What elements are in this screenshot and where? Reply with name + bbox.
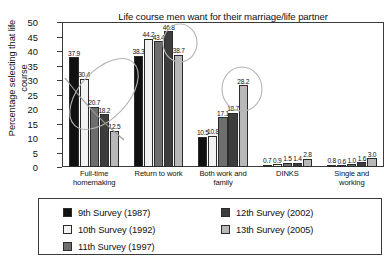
legend-item[interactable]: 9th Survey (1987) xyxy=(63,206,150,219)
bar[interactable] xyxy=(263,165,272,167)
x-axis-category-label: Single andworking xyxy=(316,169,388,188)
bar[interactable] xyxy=(347,164,356,167)
legend-color-swatch xyxy=(63,242,72,251)
x-label-line1: DINKS xyxy=(276,169,299,178)
bar-group: 0.70.91.51.42.8 xyxy=(255,22,319,167)
legend-item-label: 11th Survey (1997) xyxy=(78,242,155,252)
bar[interactable] xyxy=(357,162,366,167)
legend-color-swatch xyxy=(63,208,72,217)
x-label-line2: homemaking xyxy=(73,178,115,187)
bar[interactable] xyxy=(134,56,143,167)
bar-value-label: 0.7 xyxy=(263,157,271,164)
bars-layer: 37.930.420.718.212.538.344.243.446.838.7… xyxy=(62,22,384,167)
legend-item-label: 12th Survey (2002) xyxy=(236,208,313,218)
bar-value-label: 1.0 xyxy=(348,157,356,164)
bar-value-label: 1.6 xyxy=(358,155,366,162)
x-label-line1: Full-time xyxy=(80,169,108,178)
y-tick-label: 30 xyxy=(2,75,38,86)
bar[interactable] xyxy=(174,55,183,167)
bar[interactable] xyxy=(198,137,207,167)
bar-group: 10.510.817.118.728.2 xyxy=(191,22,255,167)
bar[interactable] xyxy=(327,165,336,167)
bar-value-label: 2.8 xyxy=(303,151,311,158)
bar[interactable] xyxy=(367,158,376,167)
bar[interactable] xyxy=(144,39,153,167)
y-tick-mark xyxy=(57,167,62,168)
bar[interactable] xyxy=(154,41,163,167)
x-label-line1: Both work and xyxy=(199,169,246,178)
bar-value-label: 10.8 xyxy=(207,128,219,135)
legend-item-label: 13th Survey (2005) xyxy=(236,225,313,235)
chart-figure: Percentage selecting that life course Li… xyxy=(0,0,389,271)
x-axis-category-label: Full-timehomemaking xyxy=(58,169,130,188)
x-axis-category-label: DINKS xyxy=(251,169,323,178)
bar-value-label: 0.9 xyxy=(273,157,281,164)
bar-value-label: 18.7 xyxy=(227,105,239,112)
bar-value-label: 1.5 xyxy=(283,155,291,162)
bar[interactable] xyxy=(293,163,302,167)
legend-item[interactable]: 11th Survey (1997) xyxy=(63,240,155,253)
bar[interactable] xyxy=(110,131,119,167)
bar[interactable] xyxy=(218,117,227,167)
bar[interactable] xyxy=(100,114,109,167)
bar[interactable] xyxy=(303,159,312,167)
legend-item[interactable]: 10th Survey (1992) xyxy=(63,223,155,236)
bar[interactable] xyxy=(239,85,248,167)
y-tick-label: 35 xyxy=(2,60,38,71)
bar-value-label: 1.4 xyxy=(293,155,301,162)
bar-value-label: 18.2 xyxy=(98,107,110,114)
x-label-line1: Single and xyxy=(334,169,369,178)
bar-value-label: 38.3 xyxy=(132,48,144,55)
bar-value-label: 30.4 xyxy=(78,71,90,78)
x-label-line2: family xyxy=(213,178,232,187)
chart-title: Life course men want for their marriage/… xyxy=(62,11,384,22)
y-tick-label: 40 xyxy=(2,46,38,57)
y-tick-label: 25 xyxy=(2,89,38,100)
legend-item-label: 10th Survey (1992) xyxy=(78,225,155,235)
bar[interactable] xyxy=(283,163,292,167)
y-tick-label: 5 xyxy=(2,147,38,158)
bar-value-label: 0.6 xyxy=(337,158,345,165)
bar-value-label: 28.2 xyxy=(237,78,249,85)
x-label-line1: Return to work xyxy=(135,169,183,178)
x-axis-category-label: Both work andfamily xyxy=(187,169,259,188)
legend-item[interactable]: 13th Survey (2005) xyxy=(221,223,313,236)
bar-value-label: 43.4 xyxy=(153,34,165,41)
legend-item[interactable]: 12th Survey (2002) xyxy=(221,206,313,219)
bar[interactable] xyxy=(80,79,89,167)
y-tick-label: 20 xyxy=(2,104,38,115)
y-tick-label: 50 xyxy=(2,17,38,28)
bar-value-label: 20.7 xyxy=(88,99,100,106)
bar[interactable] xyxy=(228,113,237,167)
bar-group: 37.930.420.718.212.5 xyxy=(62,22,126,167)
legend-color-swatch xyxy=(63,225,72,234)
bar-value-label: 0.8 xyxy=(327,157,335,164)
bar-group: 0.80.61.01.63.0 xyxy=(320,22,384,167)
x-axis-labels: Full-timehomemakingReturn to workBoth wo… xyxy=(62,169,384,195)
legend-item-label: 9th Survey (1987) xyxy=(78,208,150,218)
legend-color-swatch xyxy=(221,208,230,217)
bar[interactable] xyxy=(208,136,217,167)
bar[interactable] xyxy=(337,165,346,167)
bar-value-label: 46.8 xyxy=(163,24,175,31)
y-tick-label: 45 xyxy=(2,31,38,42)
legend-color-swatch xyxy=(221,225,230,234)
chart-legend: 9th Survey (1987)10th Survey (1992)11th … xyxy=(38,198,382,255)
bar[interactable] xyxy=(90,107,99,167)
bar-group: 38.344.243.446.838.7 xyxy=(126,22,190,167)
x-label-line2: working xyxy=(339,178,364,187)
y-tick-label: 0 xyxy=(2,162,38,173)
y-tick-label: 15 xyxy=(2,118,38,129)
x-axis-category-label: Return to work xyxy=(123,169,195,178)
bar-value-label: 38.7 xyxy=(173,47,185,54)
bar-value-label: 37.9 xyxy=(68,50,80,57)
y-tick-label: 10 xyxy=(2,133,38,144)
bar-value-label: 3.0 xyxy=(368,151,376,158)
bar[interactable] xyxy=(273,164,282,167)
bar-value-label: 12.5 xyxy=(108,123,120,130)
y-axis: 50454035302520151050 xyxy=(0,0,62,169)
